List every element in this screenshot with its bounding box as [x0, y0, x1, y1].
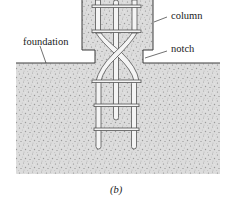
- rebar-tie-2: [92, 30, 141, 33]
- rebar-left-lower: [96, 81, 101, 149]
- column-label: column: [171, 11, 203, 22]
- column-leader-line: [154, 17, 167, 22]
- foundation-leader-line: [40, 46, 46, 63]
- notch-label: notch: [171, 44, 194, 55]
- column-foundation-diagram: [0, 0, 226, 200]
- rebar-tie-3: [92, 80, 141, 83]
- rebar-right-lower: [132, 81, 137, 149]
- foundation-label: foundation: [23, 37, 69, 48]
- notch-leader-line: [145, 51, 167, 58]
- figure-caption: (b): [110, 185, 122, 196]
- rebar-tie-1: [92, 5, 141, 8]
- rebar-tie-4: [94, 104, 139, 107]
- rebar-tie-5: [94, 128, 139, 131]
